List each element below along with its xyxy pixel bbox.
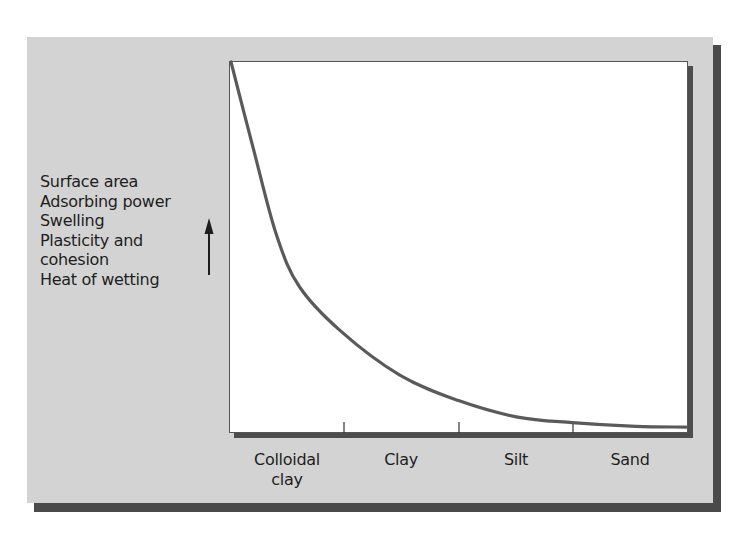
- arrow-up-icon: [205, 218, 214, 275]
- y-label-line: cohesion: [40, 250, 170, 270]
- x-label-colloidal-clay: Colloidal clay: [227, 450, 347, 490]
- decay-curve: [231, 62, 686, 427]
- x-label-sand: Sand: [570, 450, 690, 470]
- y-label-line: Heat of wetting: [40, 270, 170, 290]
- x-label-silt: Silt: [456, 450, 576, 470]
- y-label-line: Plasticity and: [40, 231, 170, 251]
- y-label-line: Adsorbing power: [40, 192, 170, 212]
- y-label-line: Swelling: [40, 211, 170, 231]
- y-label-line: Surface area: [40, 172, 170, 192]
- x-axis-ticks: [344, 422, 573, 433]
- x-label-clay: Clay: [341, 450, 461, 470]
- y-axis-label: Surface area Adsorbing power Swelling Pl…: [40, 172, 170, 289]
